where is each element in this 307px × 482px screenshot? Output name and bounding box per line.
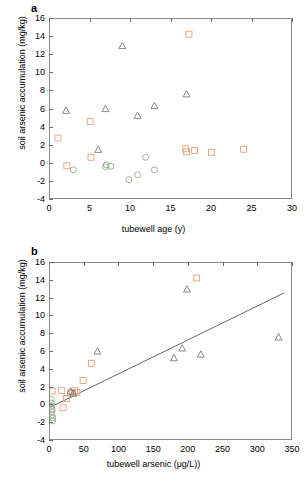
- x-tick-mark: [211, 18, 212, 22]
- panel-a: a soil arsenic accumulation (mg/kg) -4-2…: [0, 0, 307, 241]
- y-tick-label: -2: [37, 418, 45, 427]
- x-tick-label: 25: [246, 204, 256, 213]
- y-tick-mark: [49, 36, 53, 37]
- y-tick-mark: [49, 54, 53, 55]
- panel-b-letter: b: [31, 245, 38, 257]
- data-point-circle: [126, 177, 132, 183]
- y-tick-label: 0: [40, 400, 45, 409]
- y-tick-mark: [49, 127, 53, 128]
- data-point-triangle: [134, 112, 141, 118]
- y-tick-label: 14: [35, 32, 45, 41]
- x-tick-mark: [118, 262, 119, 266]
- x-tick-label: 100: [111, 445, 126, 454]
- y-tick-label: 14: [35, 275, 45, 284]
- data-point-square: [186, 31, 192, 37]
- y-tick-mark: [49, 333, 53, 334]
- x-tick-mark: [90, 18, 91, 22]
- data-point-triangle: [95, 146, 102, 152]
- data-point-triangle: [197, 351, 204, 357]
- y-tick-mark: [49, 440, 53, 441]
- panel-b-x-axis-label: tubewell arsenic (μg/L)): [0, 459, 307, 469]
- x-tick-mark: [223, 262, 224, 266]
- y-tick-label: 4: [40, 364, 45, 373]
- x-tick-mark: [252, 18, 253, 22]
- panel-b-y-axis-label: soil arsenic accumulation (mg/kg): [17, 241, 27, 411]
- data-point-circle: [70, 167, 76, 173]
- data-point-circle: [143, 154, 149, 160]
- x-tick-label: 5: [87, 204, 92, 213]
- data-point-triangle: [63, 107, 70, 113]
- data-point-square: [59, 388, 65, 394]
- data-point-triangle: [151, 102, 158, 108]
- panel-a-plot-area: [49, 18, 292, 199]
- y-tick-mark: [49, 181, 53, 182]
- panel-a-y-axis-label: soil arsenic accumulation (mg/kg): [17, 0, 27, 168]
- y-tick-mark: [49, 280, 53, 281]
- data-point-triangle: [275, 334, 282, 340]
- x-tick-label: 350: [284, 445, 299, 454]
- x-tick-label: 30: [287, 204, 297, 213]
- y-tick-label: 10: [35, 311, 45, 320]
- x-tick-label: 0: [46, 204, 51, 213]
- y-tick-label: 6: [40, 104, 45, 113]
- data-point-square: [80, 378, 86, 384]
- data-point-square: [192, 148, 198, 154]
- x-tick-label: 300: [250, 445, 265, 454]
- panel-b-data-layer: [50, 263, 291, 439]
- y-tick-label: -2: [37, 176, 45, 185]
- data-point-triangle: [102, 105, 109, 111]
- panel-a-data-layer: [50, 19, 291, 198]
- y-tick-label: 10: [35, 68, 45, 77]
- y-tick-label: 2: [40, 382, 45, 391]
- x-tick-label: 50: [79, 445, 89, 454]
- x-tick-mark: [171, 18, 172, 22]
- panel-a-plot-wrap: -4-20246810121416051015202530: [49, 18, 292, 199]
- x-tick-label: 15: [165, 204, 175, 213]
- x-tick-label: 200: [180, 445, 195, 454]
- y-tick-label: 16: [35, 258, 45, 267]
- panel-b-plot-area: [49, 262, 292, 440]
- data-point-square: [241, 146, 247, 152]
- x-tick-mark: [292, 262, 293, 266]
- data-point-square: [194, 275, 200, 281]
- y-tick-mark: [49, 369, 53, 370]
- trend-line: [50, 293, 284, 407]
- y-tick-mark: [49, 387, 53, 388]
- x-tick-mark: [130, 18, 131, 22]
- data-point-triangle: [171, 354, 178, 360]
- x-tick-mark: [49, 18, 50, 22]
- y-tick-mark: [49, 422, 53, 423]
- y-tick-mark: [49, 199, 53, 200]
- x-tick-label: 250: [215, 445, 230, 454]
- data-point-triangle: [184, 286, 191, 292]
- figure-container: a soil arsenic accumulation (mg/kg) -4-2…: [0, 0, 307, 482]
- x-tick-mark: [257, 262, 258, 266]
- x-tick-label: 20: [206, 204, 216, 213]
- data-point-triangle: [94, 348, 101, 354]
- y-tick-mark: [49, 298, 53, 299]
- y-tick-label: 12: [35, 293, 45, 302]
- data-point-triangle: [183, 90, 190, 96]
- y-tick-label: -4: [37, 436, 45, 445]
- data-point-square: [208, 149, 214, 155]
- x-tick-label: 0: [46, 445, 51, 454]
- panel-b-plot-wrap: -4-20246810121416050100150200250300350: [49, 262, 292, 440]
- y-tick-label: 4: [40, 122, 45, 131]
- y-tick-mark: [49, 72, 53, 73]
- data-point-triangle: [179, 345, 186, 351]
- x-tick-mark: [153, 262, 154, 266]
- data-point-circle: [135, 172, 141, 178]
- y-tick-mark: [49, 315, 53, 316]
- y-tick-mark: [49, 404, 53, 405]
- y-tick-label: 16: [35, 14, 45, 23]
- y-tick-label: 8: [40, 86, 45, 95]
- y-tick-mark: [49, 145, 53, 146]
- data-point-square: [88, 154, 94, 160]
- data-point-square: [64, 163, 70, 169]
- panel-b: b soil arsenic accumulation (mg/kg) -4-2…: [0, 237, 307, 482]
- data-point-square: [50, 388, 55, 394]
- x-tick-mark: [49, 262, 50, 266]
- y-tick-label: 12: [35, 50, 45, 59]
- y-tick-label: -4: [37, 195, 45, 204]
- data-point-triangle: [119, 42, 126, 48]
